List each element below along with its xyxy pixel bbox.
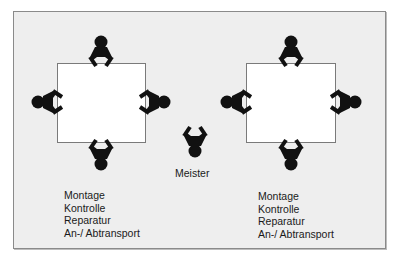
task-item: An-/ Abtransport — [64, 227, 140, 240]
right-task-list: Montage Kontrolle Reparatur An-/ Abtrans… — [258, 190, 334, 241]
task-item: An-/ Abtransport — [258, 228, 334, 241]
person-icon — [271, 33, 311, 77]
person-icon — [218, 82, 262, 122]
person-icon — [271, 129, 311, 173]
task-item: Reparatur — [64, 214, 140, 227]
task-item: Montage — [64, 189, 140, 202]
person-icon — [81, 33, 121, 77]
meister-person-icon — [175, 116, 215, 160]
task-item: Kontrolle — [64, 202, 140, 215]
task-item: Reparatur — [258, 215, 334, 228]
person-icon — [81, 129, 121, 173]
person-icon — [129, 82, 173, 122]
person-icon — [29, 82, 73, 122]
task-item: Kontrolle — [258, 203, 334, 216]
meister-label: Meister — [175, 167, 209, 179]
task-item: Montage — [258, 190, 334, 203]
person-icon — [320, 82, 364, 122]
left-task-list: Montage Kontrolle Reparatur An-/ Abtrans… — [64, 189, 140, 240]
